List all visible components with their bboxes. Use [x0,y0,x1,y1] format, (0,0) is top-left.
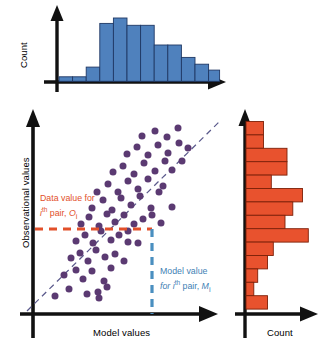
obs-histogram-bars [246,122,308,310]
data-value-symbol: O [69,208,76,218]
data-value-annotation-line2: ith pair, Oi [40,204,95,222]
right-panel-count-label: Count [267,327,293,338]
data-value-subscript: i [76,212,78,221]
top-histogram-panel [0,0,330,100]
data-value-pair-text: pair, [47,208,69,218]
observational-values-axis-label: Observational values [20,157,31,248]
model-value-annotation-line1: Model value [160,266,211,277]
model-values-axis-label: Model values [93,327,150,338]
model-value-symbol: M [202,281,209,291]
model-histogram-bars [59,18,220,81]
model-value-pair-text: pair, [180,281,202,291]
model-value-subscript: i [209,285,211,294]
main-scatter-panel [0,100,235,348]
main-panel-axes [20,109,218,338]
data-value-annotation: Data value for ith pair, Oi [40,193,95,222]
model-value-annotation-line2: for ith pair, Mi [160,277,211,295]
top-panel-count-label: Count [18,42,29,68]
model-value-annotation: Model value for ith pair, Mi [160,266,211,295]
right-histogram-panel [232,100,330,348]
model-value-i: for i [160,281,175,291]
data-value-annotation-line1: Data value for [40,193,95,204]
figure-root: Count [0,0,330,348]
